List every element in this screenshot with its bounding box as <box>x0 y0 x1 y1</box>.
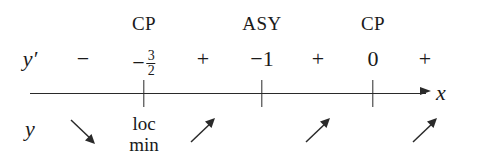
behavior-local-minimum: loc min <box>129 114 159 155</box>
row-label-y-prime: y′ <box>23 48 38 70</box>
annotation-cp-second: CP <box>361 14 385 33</box>
axis-tick-neg-three-halves <box>143 80 144 107</box>
number-line-axis <box>30 93 426 94</box>
axis-tick-zero <box>372 80 373 107</box>
critical-value-negative-one: −1 <box>250 48 273 70</box>
fraction-neg-three-halves: − 3 2 <box>132 48 155 78</box>
fraction-denominator: 2 <box>147 63 156 78</box>
up-right-arrow-icon-2 <box>303 116 333 146</box>
behavior-min-line: min <box>129 135 159 156</box>
up-right-arrow-glyph <box>188 116 218 146</box>
sign-interval-3: + <box>312 48 324 70</box>
up-right-arrow-glyph <box>303 116 333 146</box>
down-right-arrow-icon <box>68 116 98 146</box>
critical-value-neg-three-halves: − 3 2 <box>132 48 155 78</box>
annotation-asy: ASY <box>242 14 282 33</box>
axis-tick-negative-one <box>261 80 262 107</box>
fraction-stack: 3 2 <box>147 49 156 79</box>
behavior-loc-line: loc <box>129 114 159 135</box>
sign-interval-2: + <box>197 48 209 70</box>
fraction-minus-sign: − <box>132 52 144 74</box>
axis-arrowhead-icon <box>420 87 431 95</box>
sign-interval-1: − <box>77 48 89 70</box>
fraction-numerator: 3 <box>147 49 156 63</box>
sign-interval-4: + <box>419 48 431 70</box>
down-right-arrow-glyph <box>68 116 98 146</box>
up-right-arrow-icon-1 <box>188 116 218 146</box>
annotation-cp-first: CP <box>132 14 156 33</box>
derivative-sign-chart: CP ASY CP y′ − − 3 2 + −1 + 0 + x y loc <box>0 0 499 158</box>
axis-label-x: x <box>436 82 446 104</box>
up-right-arrow-glyph <box>410 116 440 146</box>
critical-value-zero: 0 <box>368 48 379 70</box>
row-label-y: y <box>25 118 35 140</box>
up-right-arrow-icon-3 <box>410 116 440 146</box>
